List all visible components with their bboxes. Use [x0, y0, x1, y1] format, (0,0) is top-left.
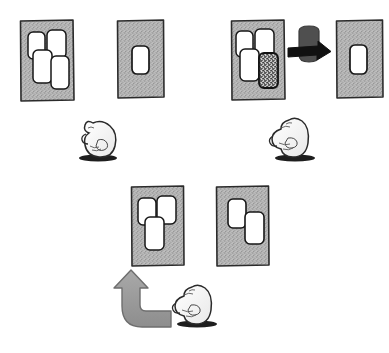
block-d-dark	[259, 53, 278, 88]
block-c	[240, 49, 259, 81]
block-a	[132, 46, 149, 74]
bird-figure-left	[79, 121, 117, 161]
bird-figure-bottom	[172, 285, 217, 327]
block-c	[33, 50, 52, 83]
bottom-right-panel	[217, 186, 270, 266]
block-c	[145, 217, 164, 250]
top-right-panel	[337, 20, 384, 98]
bottom-left-panel	[132, 186, 185, 266]
block-a	[350, 45, 367, 74]
block-d	[51, 56, 69, 89]
bird-figure-right	[269, 118, 315, 161]
dark-removed-block	[299, 26, 319, 62]
illustration-canvas	[0, 0, 389, 353]
gray-curved-up-arrow	[114, 270, 171, 327]
top-third-panel	[232, 20, 286, 100]
top-second-panel	[118, 20, 165, 98]
block-a	[228, 199, 246, 228]
top-left-panel	[21, 20, 75, 101]
block-b	[245, 212, 264, 244]
handdrawn-sequence-illustration	[0, 0, 389, 353]
